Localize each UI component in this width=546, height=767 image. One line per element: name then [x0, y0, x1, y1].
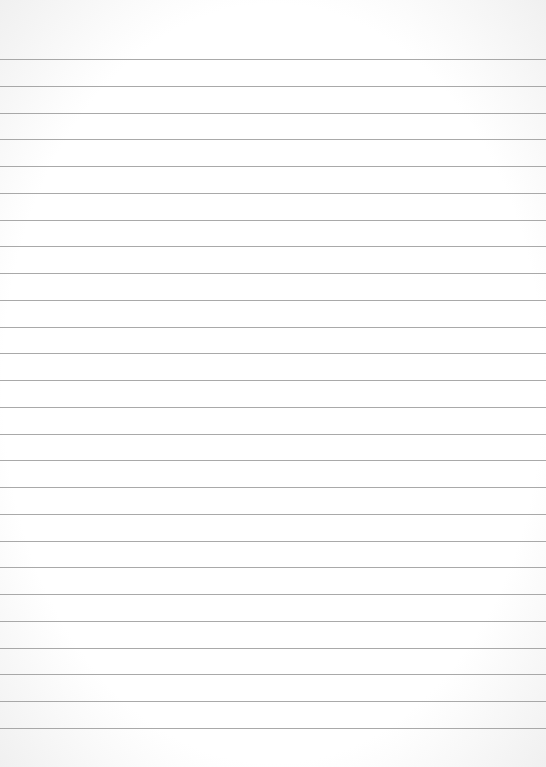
ruled-line	[0, 113, 546, 114]
ruled-line	[0, 300, 546, 301]
lined-paper-sheet	[0, 0, 546, 767]
ruled-line	[0, 434, 546, 435]
ruled-line	[0, 166, 546, 167]
ruled-line	[0, 674, 546, 675]
ruled-line	[0, 541, 546, 542]
ruled-line	[0, 193, 546, 194]
ruled-line	[0, 407, 546, 408]
ruled-line	[0, 86, 546, 87]
ruled-line	[0, 353, 546, 354]
ruled-line	[0, 701, 546, 702]
ruled-line	[0, 273, 546, 274]
ruled-line	[0, 594, 546, 595]
ruled-line	[0, 246, 546, 247]
ruled-line	[0, 487, 546, 488]
ruled-line	[0, 59, 546, 60]
ruled-line	[0, 139, 546, 140]
ruled-line	[0, 514, 546, 515]
ruled-line	[0, 728, 546, 729]
ruled-line	[0, 220, 546, 221]
ruled-line	[0, 567, 546, 568]
ruled-line	[0, 648, 546, 649]
ruled-line	[0, 621, 546, 622]
ruled-line	[0, 327, 546, 328]
ruled-line	[0, 460, 546, 461]
ruled-line	[0, 380, 546, 381]
